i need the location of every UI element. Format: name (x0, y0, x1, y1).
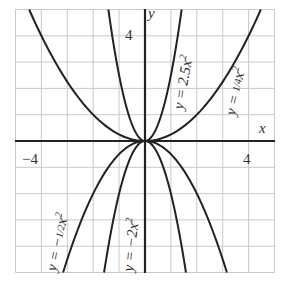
tick-label-x-neg4: −4 (22, 151, 38, 167)
svg-text:y = 1/4x2: y = 1/4x2 (220, 65, 248, 118)
y-axis-label: y (146, 5, 155, 21)
x-axis-label: x (258, 120, 266, 136)
tick-label-x-pos4: 4 (243, 151, 251, 167)
parabola-graph: −4 4 4 x y y = 2.5x2 y = 1/4x2 y = −1/2x… (0, 0, 283, 292)
label-y-neg-half-x2: y = −1/2x2 (41, 211, 71, 274)
label-y-quarter-x2: y = 1/4x2 (220, 65, 248, 118)
svg-text:y = −1/2x2: y = −1/2x2 (41, 211, 71, 274)
tick-label-y-pos4: 4 (125, 27, 133, 43)
